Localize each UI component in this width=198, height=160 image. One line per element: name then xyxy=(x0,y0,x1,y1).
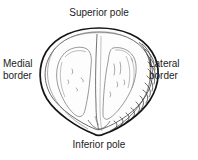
label-inferior-pole: Inferior pole xyxy=(0,139,198,151)
organ-body-fill xyxy=(40,28,158,136)
label-medial-border: Medial border xyxy=(3,58,45,81)
label-medial-border-line2: border xyxy=(3,70,45,82)
label-lateral-border-line1: Lateral xyxy=(149,58,180,69)
figure-page: Superior pole Medial border Lateral bord… xyxy=(0,0,198,160)
label-lateral-border-line2: border xyxy=(149,70,195,82)
label-medial-border-line1: Medial xyxy=(3,58,32,69)
label-lateral-border: Lateral border xyxy=(149,58,195,81)
label-superior-pole: Superior pole xyxy=(0,7,198,19)
